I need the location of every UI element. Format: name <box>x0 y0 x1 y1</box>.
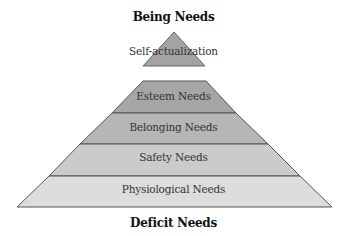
label-esteem: Esteem Needs <box>0 90 347 102</box>
label-belonging: Belonging Needs <box>0 121 347 133</box>
pyramid <box>0 0 347 236</box>
label-physiological: Physiological Needs <box>0 183 347 195</box>
deficit-needs-title: Deficit Needs <box>0 216 347 230</box>
label-safety: Safety Needs <box>0 151 347 163</box>
label-self-actualization: Self-actualization <box>0 45 347 57</box>
